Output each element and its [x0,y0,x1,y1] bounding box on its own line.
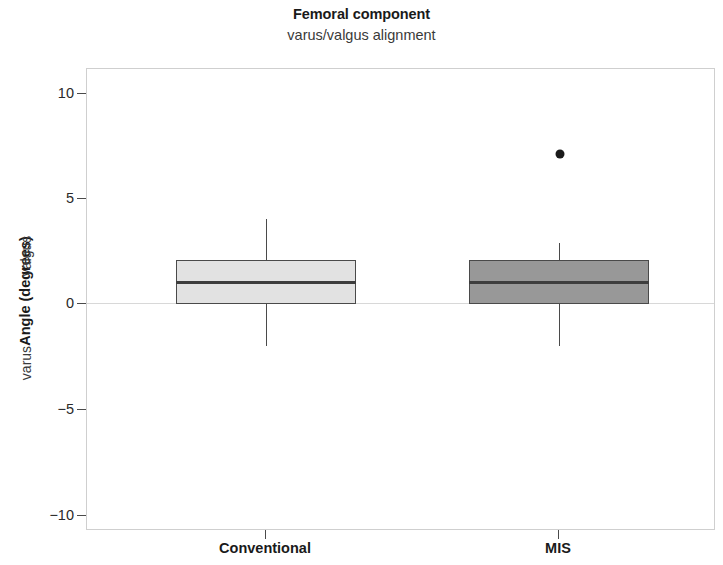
whisker-lower-mis [559,304,560,346]
y-tick-mark-10 [77,93,86,94]
median-mis [469,281,649,284]
y-tick-label-minus10: −10 [28,507,74,523]
y-tick-mark-minus10 [77,515,86,516]
outlier-point-mis [556,150,565,159]
chart-subtitle: varus/valgus alignment [0,27,723,43]
y-tick-label-minus5: −5 [28,401,74,417]
y-tick-label-10: 10 [28,85,74,101]
boxplot-mis [87,69,714,529]
y-tick-mark-0 [77,303,86,304]
y-tick-mark-minus5 [77,409,86,410]
x-tick-mark-mis [558,530,559,539]
x-tick-label-mis: MIS [458,540,658,556]
y-tick-label-0: 0 [28,295,74,311]
chart-figure: Femoral component varus/valgus alignment… [0,0,723,565]
plot-area [86,68,715,530]
x-tick-mark-conventional [265,530,266,539]
y-tick-mark-5 [77,198,86,199]
chart-title: Femoral component [0,6,723,22]
whisker-upper-mis [559,243,560,261]
x-tick-label-conventional: Conventional [165,540,365,556]
y-tick-label-5: 5 [28,190,74,206]
